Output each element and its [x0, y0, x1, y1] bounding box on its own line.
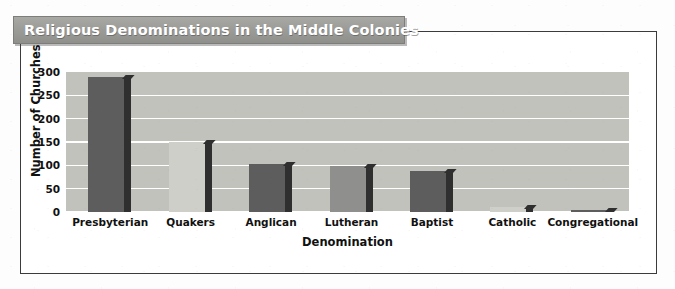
- bar[interactable]: [169, 137, 212, 212]
- bar-front-face: [410, 171, 446, 212]
- bar-front-face: [169, 142, 205, 212]
- bar-side-face: [366, 166, 373, 212]
- bar-side-face: [205, 142, 212, 212]
- chart-title: Religious Denominations in the Middle Co…: [24, 22, 419, 38]
- gridline: [66, 141, 629, 143]
- x-axis-tick-label: Baptist: [411, 216, 454, 228]
- bar-side-face: [285, 164, 292, 212]
- bar-top-face: [444, 169, 457, 173]
- bar[interactable]: [330, 161, 373, 212]
- y-axis-tick-label: 250: [26, 90, 60, 101]
- x-axis-tick-label: Anglican: [246, 216, 297, 228]
- x-axis-tick-label: Catholic: [488, 216, 536, 228]
- plot-area: [66, 72, 629, 212]
- bar-top-face: [364, 164, 377, 168]
- x-axis-tick-labels: PresbyterianQuakersAnglicanLutheranBapti…: [66, 216, 629, 232]
- y-axis-tick-label: 200: [26, 113, 60, 124]
- bar-front-face: [88, 77, 124, 212]
- figure-root: Religious Denominations in the Middle Co…: [0, 0, 675, 289]
- bar[interactable]: [490, 202, 533, 212]
- bar[interactable]: [410, 166, 453, 212]
- x-axis-title: Denomination: [66, 235, 629, 249]
- x-axis-tick-label: Quakers: [166, 216, 215, 228]
- y-axis-tick-label: 0: [26, 207, 60, 218]
- y-axis-tick-label: 50: [26, 183, 60, 194]
- bar[interactable]: [571, 205, 614, 212]
- bar-top-face: [524, 205, 537, 209]
- y-axis-tick-label: 150: [26, 137, 60, 148]
- x-axis-tick-label: Lutheran: [325, 216, 379, 228]
- bar-front-face: [490, 207, 526, 212]
- bar-front-face: [571, 210, 607, 212]
- chart-title-banner: Religious Denominations in the Middle Co…: [13, 16, 405, 44]
- y-axis-tick-label: 300: [26, 67, 60, 78]
- bar-front-face: [249, 164, 285, 212]
- gridline: [66, 118, 629, 120]
- y-axis-tick-labels: 300250200150100500: [26, 66, 60, 218]
- bar[interactable]: [249, 159, 292, 212]
- x-axis-tick-label: Congregational: [547, 216, 638, 228]
- bar-side-face: [124, 77, 131, 212]
- y-axis-tick-label: 100: [26, 160, 60, 171]
- bar[interactable]: [88, 72, 131, 212]
- bar-top-face: [122, 75, 135, 79]
- bar-front-face: [330, 166, 366, 212]
- bar-top-face: [203, 140, 216, 144]
- gridline: [66, 95, 629, 97]
- x-axis-tick-label: Presbyterian: [72, 216, 148, 228]
- bar-side-face: [446, 171, 453, 212]
